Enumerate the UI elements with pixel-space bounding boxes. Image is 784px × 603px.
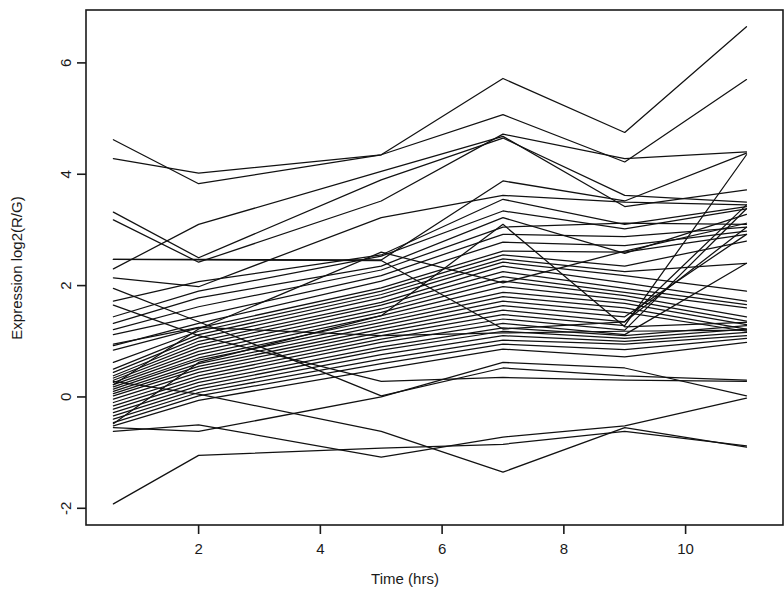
plot-canvas: -20246 246810 Time (hrs) Expression log2… [0,0,784,603]
y-tick-label: 4 [58,170,75,178]
chart-figure: -20246 246810 Time (hrs) Expression log2… [0,0,784,603]
x-tick-label: 4 [316,540,324,557]
y-tick-label: -2 [58,502,75,515]
y-tick-label: 0 [58,393,75,401]
x-tick-label: 10 [677,540,694,557]
x-tick-label: 2 [194,540,202,557]
x-tick-label: 8 [560,540,568,557]
x-axis-title: Time (hrs) [371,570,439,587]
y-tick-label: 2 [58,281,75,289]
x-tick-label: 6 [438,540,446,557]
y-tick-label: 6 [58,59,75,67]
y-axis-title: Expression log2(R/G) [8,196,25,339]
